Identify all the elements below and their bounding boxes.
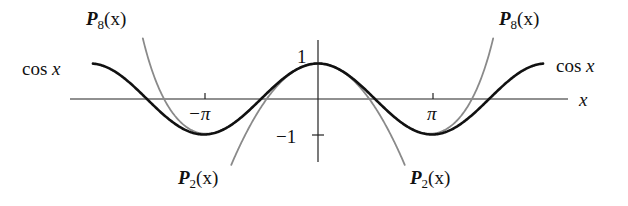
p-symbol: P [410,167,422,188]
arg: (x) [196,167,218,188]
p-symbol: P [178,167,190,188]
cos-text: cos [556,55,581,76]
axis-text: x [579,89,587,110]
label-p2-right: P2(x) [410,168,450,190]
tick-text: 1 [297,46,307,67]
tick-text: π [427,103,437,124]
tick-label-neg-pi: −π [188,104,210,123]
label-p8-right: P8(x) [499,9,539,31]
label-cos-left: cos x [22,59,61,78]
arg: (x) [428,167,450,188]
tick-text: −1 [276,126,296,147]
label-p2-left: P2(x) [178,168,218,190]
tick-label-neg-one: −1 [276,127,296,146]
x-var: x [52,58,60,79]
axis-label-x: x [579,90,587,109]
arg: (x) [104,8,126,29]
p-symbol: P [499,8,511,29]
tick-text: −π [188,103,210,124]
label-p8-left: P8(x) [86,9,126,31]
p-symbol: P [86,8,98,29]
label-cos-right: cos x [556,56,595,75]
arg: (x) [517,8,539,29]
cos-text: cos [22,58,47,79]
tick-label-one: 1 [297,47,307,66]
tick-label-pi: π [427,104,437,123]
x-var: x [586,55,594,76]
